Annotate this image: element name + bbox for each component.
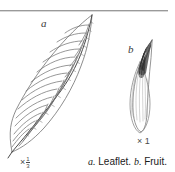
- caption-text-a: Leaflet.: [98, 156, 131, 167]
- caption-text-b: Fruit.: [144, 156, 167, 167]
- specimen-label-b: b: [128, 44, 134, 55]
- scale-leaflet-denominator: 3: [26, 162, 29, 169]
- caption-letter-b: b.: [134, 156, 142, 167]
- scale-leaflet-numerator: 1: [26, 156, 29, 162]
- fruit-illustration: [0, 0, 175, 172]
- scale-fruit: × 1: [137, 137, 150, 146]
- scale-leaflet-fraction: 13: [26, 156, 29, 170]
- caption-letter-a: a.: [88, 156, 96, 167]
- scale-leaflet-prefix: ×: [20, 157, 25, 167]
- specimen-label-a: a: [41, 18, 47, 29]
- scale-leaflet: ×13: [20, 156, 30, 170]
- botanical-figure: a b ×13 × 1 a. Leaflet. b. Fruit.: [0, 0, 175, 172]
- figure-caption: a. Leaflet. b. Fruit.: [88, 157, 167, 167]
